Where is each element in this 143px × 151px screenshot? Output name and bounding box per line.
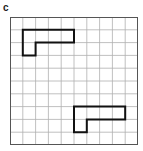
panel-label: c [3,2,9,14]
grid-diagram [10,17,138,145]
